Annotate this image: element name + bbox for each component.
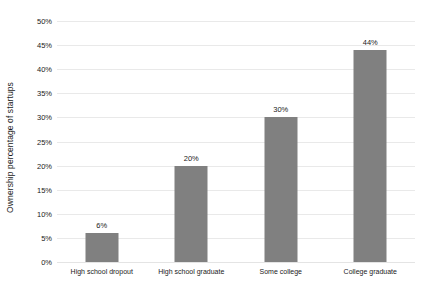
bar[interactable] — [354, 50, 387, 262]
bar[interactable] — [264, 117, 297, 262]
bar-group: 44% — [326, 21, 416, 262]
bar-value-label: 44% — [363, 38, 378, 47]
bar-value-label: 20% — [184, 154, 199, 163]
bar[interactable] — [175, 166, 208, 262]
y-axis-title: Ownership percentage of startups — [0, 0, 20, 295]
bar[interactable] — [85, 233, 118, 262]
x-axis-tick-labels: High school dropoutHigh school graduateS… — [57, 268, 415, 282]
bar-series: 6%20%30%44% — [57, 21, 415, 262]
x-axis-tick-label: Some college — [260, 268, 302, 275]
x-axis-tick-label: College graduate — [344, 268, 397, 275]
x-axis-tick-label: High school graduate — [158, 268, 224, 275]
x-axis-tick-label: High school dropout — [71, 268, 133, 275]
bar-group: 30% — [236, 21, 326, 262]
bar-group: 20% — [147, 21, 237, 262]
gridline — [57, 262, 415, 263]
bar-group: 6% — [57, 21, 147, 262]
bar-chart: Ownership percentage of startups 0%5%10%… — [0, 0, 423, 295]
bar-value-label: 6% — [96, 221, 107, 230]
bar-value-label: 30% — [273, 105, 288, 114]
